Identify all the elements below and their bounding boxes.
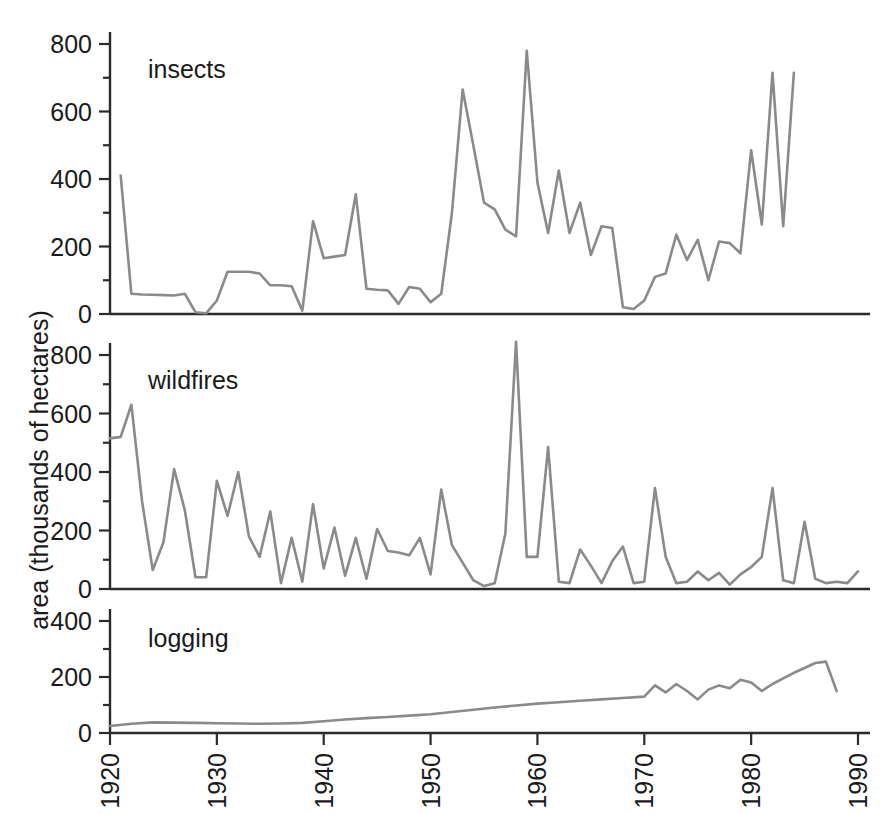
y-tick-label-insects-800: 800 (50, 30, 92, 58)
y-tick-label-logging-400: 400 (50, 607, 92, 635)
y-tick-label-logging-0: 0 (78, 719, 92, 747)
x-tick-label-1960: 1960 (523, 753, 551, 809)
y-tick-label-logging-200: 200 (50, 663, 92, 691)
y-tick-label-wildfires-600: 600 (50, 400, 92, 428)
panel-label-logging: logging (148, 624, 229, 652)
x-tick-label-1930: 1930 (203, 753, 231, 809)
chart-figure: area (thousands of hectares) 02004006008… (0, 0, 882, 814)
y-tick-label-insects-200: 200 (50, 233, 92, 261)
x-tick-label-1920: 1920 (96, 753, 124, 809)
x-tick-label-1970: 1970 (630, 753, 658, 809)
y-tick-label-insects-600: 600 (50, 98, 92, 126)
x-tick-label-1980: 1980 (737, 753, 765, 809)
three-panel-line-chart: area (thousands of hectares) 02004006008… (0, 0, 882, 814)
x-tick-label-1940: 1940 (310, 753, 338, 809)
y-tick-label-wildfires-0: 0 (78, 575, 92, 603)
panel-label-insects: insects (148, 55, 226, 83)
y-axis-title-group: area (thousands of hectares) (25, 310, 53, 630)
y-tick-label-wildfires-200: 200 (50, 517, 92, 545)
panel-label-wildfires: wildfires (147, 366, 238, 394)
y-tick-label-insects-0: 0 (78, 300, 92, 328)
y-tick-label-wildfires-800: 800 (50, 341, 92, 369)
y-axis-title: area (thousands of hectares) (25, 310, 53, 630)
x-tick-label-1990: 1990 (844, 753, 872, 809)
x-tick-label-1950: 1950 (417, 753, 445, 809)
y-tick-label-insects-400: 400 (50, 165, 92, 193)
y-tick-label-wildfires-400: 400 (50, 458, 92, 486)
